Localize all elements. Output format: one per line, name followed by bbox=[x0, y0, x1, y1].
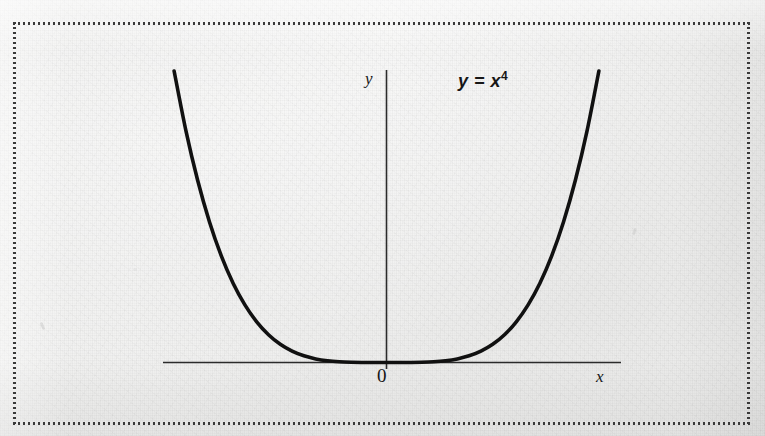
figure-root: y x 0 y = x4 bbox=[0, 0, 765, 436]
equation-exponent: 4 bbox=[501, 69, 508, 83]
equation-annotation: y = x4 bbox=[458, 70, 508, 90]
x-axis-label: x bbox=[596, 368, 604, 385]
equation-variable-y: y = x bbox=[458, 71, 501, 91]
y-axis-label: y bbox=[365, 70, 373, 87]
origin-label: 0 bbox=[377, 366, 387, 385]
